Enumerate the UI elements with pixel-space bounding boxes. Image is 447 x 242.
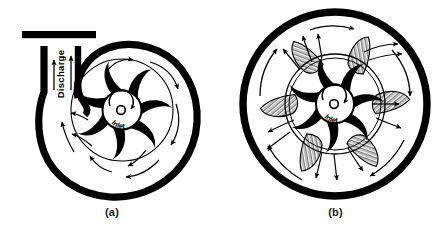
figure-root: Discharge xyxy=(0,0,447,242)
shaft-eye xyxy=(330,100,339,109)
flow-arrow xyxy=(334,154,337,180)
caption-a: (a) xyxy=(0,206,224,218)
volute-tongue-cutwater xyxy=(78,46,87,115)
flow-arrow xyxy=(171,104,179,145)
swirl-arrow xyxy=(392,50,410,96)
flow-arrow xyxy=(72,134,92,146)
panel-volute-pump: Discharge xyxy=(0,0,224,242)
flow-arrow xyxy=(90,156,112,172)
diffuser-vane xyxy=(260,92,299,119)
flow-arrow xyxy=(108,59,133,70)
discharge-flange xyxy=(22,31,96,38)
flow-arrow xyxy=(318,34,322,58)
panel-diffuser-pump: Inlet xyxy=(224,0,447,242)
caption-b: (b) xyxy=(224,206,447,218)
flow-arrow xyxy=(128,150,146,166)
discharge-duct xyxy=(78,46,87,115)
diffuser-vane xyxy=(372,90,411,117)
discharge-label: Discharge xyxy=(55,50,66,99)
shaft-eye xyxy=(117,106,126,115)
flow-arrow xyxy=(267,132,290,149)
flow-arrow xyxy=(126,160,159,177)
swirl-arrow xyxy=(260,49,277,96)
flow-arrow xyxy=(62,122,74,152)
swirl-arrow xyxy=(310,26,354,30)
flow-arrow xyxy=(150,62,178,89)
